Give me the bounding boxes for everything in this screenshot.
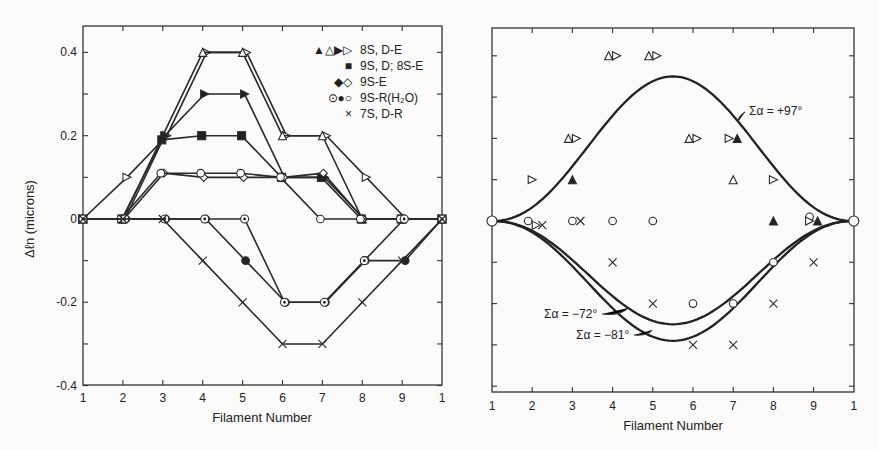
y-tick-label: -0.2 (56, 295, 77, 309)
triangle-open-marker (685, 134, 693, 142)
circle-open-marker (729, 300, 737, 308)
scatter-point (769, 217, 777, 225)
legend-markers-9s-r: ⊙●○ (328, 91, 353, 105)
triangle-open-marker (645, 52, 653, 60)
right-x-ticks: 1234567891 (489, 28, 858, 413)
x-tick-label: 1 (850, 399, 857, 413)
x-tick-label: 7 (319, 391, 326, 405)
left-x-ticks: 1234567891 (80, 26, 446, 405)
cross-marker (769, 300, 777, 308)
circle-dot-center (283, 301, 286, 304)
x-tick-label: 8 (359, 391, 366, 405)
x-tick-label: 8 (770, 399, 777, 413)
scatter-point (769, 176, 777, 184)
square-marker (198, 132, 206, 140)
circle-dot-center (203, 218, 206, 221)
triangle-open-marker (564, 134, 572, 142)
legend-label-9s-e: 9S-E (360, 75, 387, 89)
curve-endpoint-right (849, 216, 859, 226)
scatter-point (685, 134, 701, 142)
x-tick-label: 1 (489, 399, 496, 413)
series-path (83, 219, 442, 302)
circle-open-marker (317, 215, 325, 223)
scatter-point (769, 300, 777, 308)
cross-marker (649, 300, 657, 308)
x-tick-label: 9 (810, 399, 817, 413)
legend-markers-7s: × (345, 107, 352, 121)
series-path (83, 173, 442, 219)
cross-marker (609, 258, 617, 266)
x-tick-label: 3 (159, 391, 166, 405)
circle-open-marker (569, 217, 577, 225)
scatter-point (689, 300, 697, 308)
annotation-leader-plus-97 (738, 112, 745, 122)
x-tick-label: 3 (569, 399, 576, 413)
legend-markers-8s: ▲△▶▷ (313, 43, 353, 57)
legend-markers-9s-e: ◆◇ (334, 75, 353, 89)
scatter-point (564, 134, 580, 142)
circle-open-marker (277, 174, 285, 182)
cross-marker (689, 341, 697, 349)
left-y-axis-label: Δℓn (microns) (22, 180, 37, 258)
curve-endpoint-left (487, 216, 497, 226)
scatter-point (609, 258, 617, 266)
y-tick-label: 0.4 (60, 45, 77, 59)
x-tick-label: 4 (609, 399, 616, 413)
scatter-point (649, 300, 657, 308)
right-triangle-filled-marker (241, 90, 249, 98)
circle-dot-center (403, 218, 406, 221)
series-line (79, 215, 446, 348)
square-marker (238, 132, 246, 140)
circle-open-marker (357, 215, 365, 223)
circle-open-marker (689, 300, 697, 308)
right-triangle-open-marker (769, 176, 777, 184)
legend-label-9s-d: 9S, D; 8S-E (360, 59, 423, 73)
cross-marker (810, 258, 818, 266)
y-tick-label: 0 (70, 212, 77, 226)
right-triangle-filled-marker (201, 90, 209, 98)
x-tick-label: 6 (690, 399, 697, 413)
legend-label-9s-r: 9S-R(H₂O) (360, 91, 418, 105)
x-tick-label: 5 (239, 391, 246, 405)
scatter-point (605, 52, 621, 60)
circle-open-marker (524, 217, 532, 225)
square-marker (158, 136, 166, 144)
x-tick-label: 1 (439, 391, 446, 405)
curve-plus-97 (492, 77, 854, 222)
y-tick-label: 0.2 (60, 129, 77, 143)
scatter-point (649, 217, 657, 225)
left-plot-frame (83, 26, 442, 385)
triangle-filled-marker (769, 217, 777, 225)
circle-open-marker (157, 169, 165, 177)
triangle-open-marker (605, 52, 613, 60)
right-triangle-open-marker (653, 52, 661, 60)
right-curves (487, 77, 859, 341)
left-x-axis-label: Filament Number (212, 410, 312, 425)
right-scatter-points (524, 52, 821, 349)
cross-marker (358, 298, 366, 306)
x-tick-label: 9 (399, 391, 406, 405)
scatter-point (524, 217, 532, 225)
annotation-minus-81: Σα = −81° (576, 328, 629, 342)
circle-open-marker (649, 217, 657, 225)
scatter-point (645, 52, 661, 60)
right-triangle-open-marker (725, 134, 733, 142)
series-path (83, 219, 442, 344)
scatter-point (729, 300, 737, 308)
circle-dot-center (363, 259, 366, 262)
scatter-point (689, 341, 697, 349)
legend-markers-9s-d: ■ (345, 59, 352, 73)
triangle-open-marker (729, 176, 737, 184)
legend-label-8s: 8S, D-E (360, 43, 402, 57)
scatter-point (770, 259, 778, 267)
x-tick-label: 6 (279, 391, 286, 405)
right-panel: 1234567891 Filament Number Σα = +97° Σα … (487, 28, 859, 433)
scatter-point (810, 258, 818, 266)
figure: 1234567891 0.40.20-0.2-0.4 Δℓn (microns)… (0, 0, 879, 450)
scatter-point (528, 176, 536, 184)
scatter-point (609, 217, 617, 225)
cross-marker (576, 217, 584, 225)
right-x-axis-label: Filament Number (623, 418, 723, 433)
x-tick-label: 1 (80, 391, 87, 405)
scatter-point (569, 217, 577, 225)
